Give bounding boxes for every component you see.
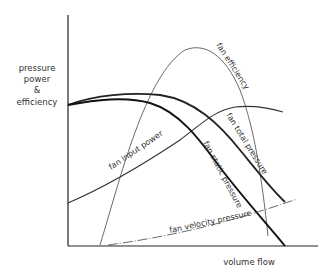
fan-characteristic-chart: pressure power & efficiency volume flow …	[0, 0, 334, 275]
fan-static-pressure-label: fan static pressure	[201, 140, 244, 210]
y-axis-label-pressure: pressure	[19, 63, 56, 73]
fan-total-pressure-label: fan total pressure	[224, 111, 269, 176]
fan-velocity-pressure-label: fan velocity pressure	[169, 209, 253, 235]
y-axis-label-power: power	[24, 74, 51, 84]
y-axis-label-efficiency: efficiency	[17, 97, 58, 107]
y-axis-label-and: &	[34, 85, 41, 95]
x-axis-label: volume flow	[223, 257, 275, 267]
fan-input-power-label: fan input power	[107, 128, 165, 171]
fan-efficiency-label: fan efficiency	[214, 41, 251, 91]
